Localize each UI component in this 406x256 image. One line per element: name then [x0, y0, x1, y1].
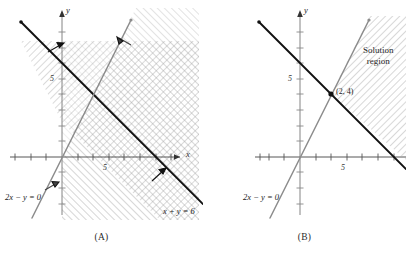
line-xy-endpoint-dot — [19, 20, 23, 24]
panel-a-graphic — [0, 0, 203, 256]
line-label-two-x-minus-y: 2x − y = 0 — [243, 193, 279, 202]
inequality-graph-figure: y x 5 5 2x − y = 0 x + y = 6 (A) — [0, 0, 406, 256]
y-axis-label: y — [304, 6, 308, 15]
panel-b-graphic — [203, 0, 406, 256]
line-xy-endpoint-dot — [257, 20, 261, 24]
line-label-two-x-minus-y: 2x − y = 0 — [5, 193, 41, 202]
y-tick-label-5: 5 — [50, 75, 54, 83]
corner-point-marker — [328, 91, 333, 96]
panel-a: y x 5 5 2x − y = 0 x + y = 6 (A) — [0, 0, 203, 256]
solution-region-label-line1: Solution — [363, 45, 394, 55]
line-2xy-endpoint-dot — [367, 18, 370, 21]
line-two-x-minus-y-equals-0 — [270, 20, 369, 218]
panel-a-caption: (A) — [0, 232, 203, 242]
x-tick-label-5: 5 — [341, 164, 345, 172]
y-tick-label-5: 5 — [288, 75, 292, 83]
line-label-x-plus-y: x + y = 6 — [163, 207, 195, 216]
corner-point-label: (2, 4) — [336, 88, 353, 96]
line-2xy-endpoint-dot — [129, 18, 132, 21]
panel-b: y 5 5 (2, 4) Solution region 2x − y = 0 … — [203, 0, 406, 256]
solution-region-label-line2: region — [367, 56, 390, 66]
solution-region-label: Solution region — [363, 45, 394, 67]
x-axis-label: x — [186, 150, 190, 159]
panel-b-caption: (B) — [203, 232, 406, 242]
y-axis-arrowhead — [297, 10, 303, 17]
y-axis-label: y — [66, 6, 70, 15]
x-tick-label-5: 5 — [103, 164, 107, 172]
